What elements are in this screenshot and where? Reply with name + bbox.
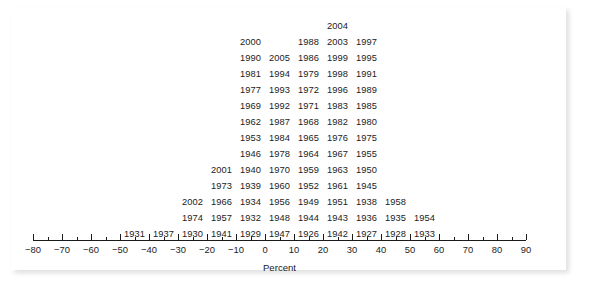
x-tick-label: 60: [434, 245, 444, 255]
x-tick-label: −10: [228, 245, 244, 255]
x-tick-label: 50: [405, 245, 415, 255]
x-tick-label: −30: [170, 245, 186, 255]
x-tick-label: 30: [347, 245, 357, 255]
x-tick-label: −80: [25, 245, 41, 255]
x-tick-label: −70: [54, 245, 70, 255]
x-tick-label: 20: [318, 245, 328, 255]
x-tick-label: 0: [262, 245, 267, 255]
figure-container: 2004200019882003199719902005198619991995…: [0, 0, 589, 286]
x-tick-label-layer: −80−70−60−50−40−30−20−100102030405060708…: [11, 7, 566, 270]
x-axis-title: Percent: [263, 262, 296, 273]
dot-plot: 2004200019882003199719902005198619991995…: [11, 7, 566, 270]
x-tick-label: −40: [141, 245, 157, 255]
x-tick-label: 40: [376, 245, 386, 255]
chart-panel: 2004200019882003199719902005198619991995…: [11, 7, 566, 270]
x-tick-label: 80: [492, 245, 502, 255]
x-tick-label: −60: [83, 245, 99, 255]
x-tick-label: 90: [521, 245, 531, 255]
x-tick-label: 10: [289, 245, 299, 255]
x-tick-label: 70: [463, 245, 473, 255]
x-tick-label: −50: [112, 245, 128, 255]
x-tick-label: −20: [199, 245, 215, 255]
